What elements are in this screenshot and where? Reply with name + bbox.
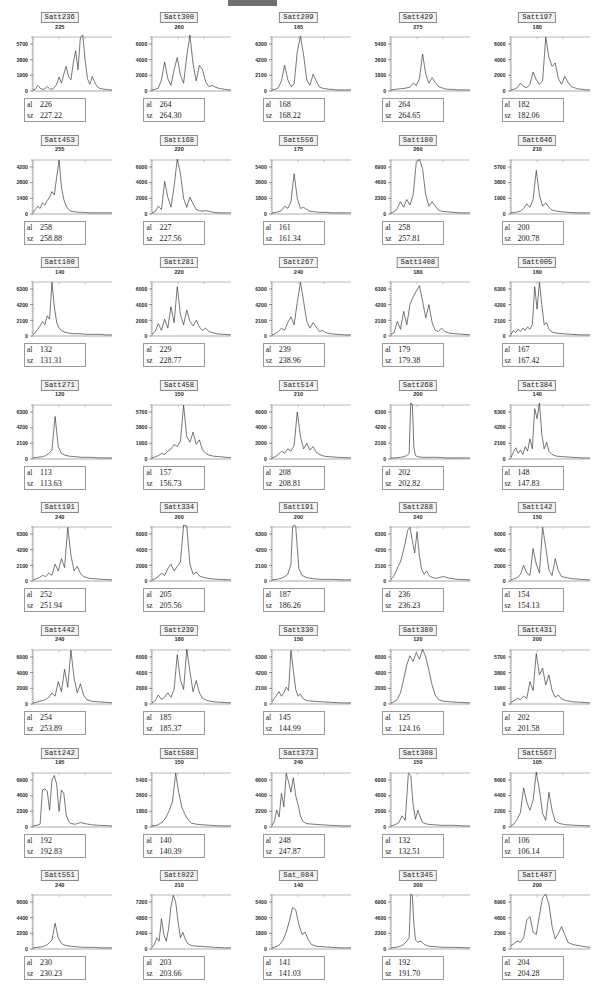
marker-panel[interactable]: Satt4292755400360018000al264sz264.65	[358, 10, 477, 133]
marker-name-label[interactable]: Satt1408	[397, 257, 440, 268]
marker-name-label[interactable]: Satt308	[399, 748, 437, 759]
electropherogram-plot[interactable]	[123, 889, 236, 955]
marker-name-label[interactable]: Satt373	[279, 748, 317, 759]
marker-name-label[interactable]: Satt551	[41, 870, 79, 881]
marker-name-label[interactable]: Satt345	[399, 870, 437, 881]
marker-panel[interactable]: Satt3002606000400020000al264sz264.30	[119, 10, 238, 133]
electropherogram-plot[interactable]	[362, 644, 475, 710]
marker-panel[interactable]: Satt3732406600440022000al248sz247.87	[239, 746, 358, 869]
electropherogram-plot[interactable]	[4, 521, 117, 587]
electropherogram-plot[interactable]	[482, 521, 595, 587]
marker-panel[interactable]: Sat_0841405400360018000al141sz141.03	[239, 868, 358, 991]
electropherogram-plot[interactable]	[482, 399, 595, 465]
electropherogram-plot[interactable]	[4, 644, 117, 710]
marker-name-label[interactable]: Satt168	[160, 135, 198, 146]
electropherogram-plot[interactable]	[123, 154, 236, 220]
electropherogram-plot[interactable]	[4, 154, 117, 220]
marker-name-label[interactable]: Satt431	[518, 625, 556, 636]
electropherogram-plot[interactable]	[362, 31, 475, 97]
electropherogram-plot[interactable]	[362, 399, 475, 465]
electropherogram-plot[interactable]	[362, 521, 475, 587]
marker-panel[interactable]: Satt1001406300420021000al132sz131.31	[0, 255, 119, 378]
electropherogram-plot[interactable]	[482, 31, 595, 97]
electropherogram-plot[interactable]	[4, 399, 117, 465]
marker-panel[interactable]: Satt2391806000400020000al185sz185.37	[119, 623, 238, 746]
marker-panel[interactable]: Satt5512406600440022000al230sz230.23	[0, 868, 119, 991]
marker-panel[interactable]: Satt4312005700380019000al202sz201.58	[478, 623, 597, 746]
electropherogram-plot[interactable]	[362, 276, 475, 342]
marker-name-label[interactable]: Satt588	[160, 748, 198, 759]
electropherogram-plot[interactable]	[243, 399, 356, 465]
marker-panel[interactable]: Satt3342006000400020000al205sz205.56	[119, 500, 238, 623]
marker-panel[interactable]: Satt5881505400360018000al140sz140.39	[119, 746, 238, 869]
marker-name-label[interactable]: Sat_084	[279, 870, 317, 881]
marker-panel[interactable]: Satt2812206000400020000al229sz228.77	[119, 255, 238, 378]
marker-panel[interactable]: Satt1912006300420021000al187sz186.26	[239, 500, 358, 623]
electropherogram-plot[interactable]	[482, 644, 595, 710]
electropherogram-plot[interactable]	[243, 644, 356, 710]
marker-panel[interactable]: Satt1421506000400020000al154sz154.13	[478, 500, 597, 623]
electropherogram-plot[interactable]	[123, 399, 236, 465]
electropherogram-plot[interactable]	[243, 889, 356, 955]
electropherogram-plot[interactable]	[482, 767, 595, 833]
marker-panel[interactable]: Satt1802606900460023000al258sz257.81	[358, 133, 477, 256]
marker-panel[interactable]: Satt2682006300420021000al202sz202.82	[358, 378, 477, 501]
marker-name-label[interactable]: Satt567	[518, 748, 556, 759]
electropherogram-plot[interactable]	[4, 767, 117, 833]
marker-panel[interactable]: Satt5561755400360018000al161sz161.34	[239, 133, 358, 256]
marker-name-label[interactable]: Satt236	[41, 12, 79, 23]
electropherogram-plot[interactable]	[243, 276, 356, 342]
marker-name-label[interactable]: Satt191	[41, 502, 79, 513]
marker-panel[interactable]: Satt1971806000400020000al182sz182.06	[478, 10, 597, 133]
electropherogram-plot[interactable]	[243, 154, 356, 220]
marker-name-label[interactable]: Satt191	[279, 502, 317, 513]
electropherogram-plot[interactable]	[123, 644, 236, 710]
marker-panel[interactable]: Satt0051606300420021000al167sz167.42	[478, 255, 597, 378]
electropherogram-plot[interactable]	[482, 889, 595, 955]
marker-panel[interactable]: Satt0222107200480024000al203sz203.66	[119, 868, 238, 991]
marker-name-label[interactable]: Satt442	[41, 625, 79, 636]
marker-panel[interactable]: Satt3081506000400020000al132sz132.51	[358, 746, 477, 869]
marker-panel[interactable]: Satt4872006900460023000al204sz204.28	[478, 868, 597, 991]
marker-panel[interactable]: Satt3301506300420021000al145sz144.99	[239, 623, 358, 746]
marker-name-label[interactable]: Satt005	[518, 257, 556, 268]
marker-panel[interactable]: Satt4532554200280014000al258sz258.88	[0, 133, 119, 256]
marker-name-label[interactable]: Satt180	[399, 135, 437, 146]
marker-name-label[interactable]: Satt453	[41, 135, 79, 146]
marker-name-label[interactable]: Satt022	[160, 870, 198, 881]
electropherogram-plot[interactable]	[123, 521, 236, 587]
marker-name-label[interactable]: Satt556	[279, 135, 317, 146]
marker-name-label[interactable]: Satt334	[160, 502, 198, 513]
marker-name-label[interactable]: Satt267	[279, 257, 317, 268]
marker-name-label[interactable]: Satt487	[518, 870, 556, 881]
marker-panel[interactable]: Satt1682206000400020000al227sz227.56	[119, 133, 238, 256]
marker-panel[interactable]: Satt14081806300420021000al179sz179.38	[358, 255, 477, 378]
marker-name-label[interactable]: Satt239	[160, 625, 198, 636]
marker-panel[interactable]: Satt2421956900460023000al192sz192.83	[0, 746, 119, 869]
marker-name-label[interactable]: Satt429	[399, 12, 437, 23]
marker-name-label[interactable]: Satt646	[518, 135, 556, 146]
marker-name-label[interactable]: Satt380	[399, 625, 437, 636]
electropherogram-plot[interactable]	[123, 31, 236, 97]
electropherogram-plot[interactable]	[362, 154, 475, 220]
marker-name-label[interactable]: Satt142	[518, 502, 556, 513]
marker-panel[interactable]: Satt2882406300420021000al236sz236.23	[358, 500, 477, 623]
marker-panel[interactable]: Satt5671056600440022000al106sz106.14	[478, 746, 597, 869]
electropherogram-plot[interactable]	[123, 276, 236, 342]
electropherogram-plot[interactable]	[362, 767, 475, 833]
marker-name-label[interactable]: Satt514	[279, 380, 317, 391]
marker-panel[interactable]: Satt1912406300420021000al252sz251.94	[0, 500, 119, 623]
marker-panel[interactable]: Satt2711206300420021000al113sz113.63	[0, 378, 119, 501]
marker-name-label[interactable]: Satt330	[279, 625, 317, 636]
marker-panel[interactable]: Satt5142106000400020000al208sz208.81	[239, 378, 358, 501]
marker-panel[interactable]: Satt4422406000400020000al254sz253.89	[0, 623, 119, 746]
marker-panel[interactable]: Satt2672406300420021000al239sz238.96	[239, 255, 358, 378]
marker-name-label[interactable]: Satt458	[160, 380, 198, 391]
marker-name-label[interactable]: Satt100	[41, 257, 79, 268]
marker-name-label[interactable]: Satt209	[279, 12, 317, 23]
electropherogram-plot[interactable]	[482, 276, 595, 342]
marker-panel[interactable]: Satt6462105700380019000al200sz200.78	[478, 133, 597, 256]
marker-name-label[interactable]: Satt197	[518, 12, 556, 23]
marker-name-label[interactable]: Satt242	[41, 748, 79, 759]
electropherogram-plot[interactable]	[243, 521, 356, 587]
